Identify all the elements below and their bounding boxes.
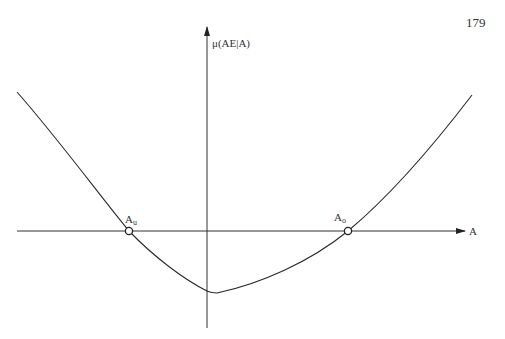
root-marker-ao — [344, 227, 351, 234]
mu-curve — [17, 92, 472, 293]
root-marker-au — [125, 227, 132, 234]
figure-diagram: A μ(AE|A) Au Ao — [0, 0, 505, 339]
figure-caption-cutoff — [60, 331, 460, 339]
root-label-au: Au — [125, 213, 137, 227]
y-axis-label: μ(AE|A) — [212, 37, 250, 50]
root-label-ao: Ao — [334, 211, 346, 225]
x-axis-label: A — [469, 225, 477, 237]
